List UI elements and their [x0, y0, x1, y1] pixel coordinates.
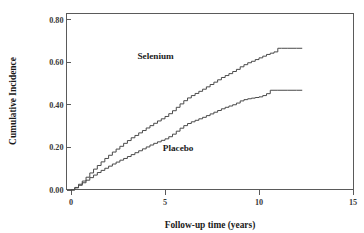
y-tick-label-0.00: 0.00: [49, 186, 63, 195]
series-label-selenium: Selenium: [137, 51, 174, 61]
x-tick-label-5: 5: [163, 198, 167, 207]
series-curves: [71, 48, 302, 190]
y-tick-label-0.40: 0.40: [49, 101, 63, 110]
chart-figure: 051015 0.000.200.400.600.80 SeleniumPlac…: [0, 0, 364, 233]
x-axis-ticks: [71, 190, 353, 195]
plot-frame: [67, 14, 354, 190]
x-tick-label-0: 0: [69, 198, 73, 207]
series-annotations: SeleniumPlacebo: [137, 51, 193, 153]
y-tick-label-0.60: 0.60: [49, 58, 63, 67]
curve-placebo: [71, 90, 302, 190]
series-label-placebo: Placebo: [163, 143, 194, 153]
x-tick-label-15: 15: [349, 198, 357, 207]
y-axis-ticks: [67, 20, 72, 191]
y-axis-title: Cumulative Incidence: [8, 57, 18, 145]
y-axis-tick-labels: 0.000.200.400.600.80: [49, 16, 63, 196]
y-tick-label-0.20: 0.20: [49, 143, 63, 152]
x-axis-title: Follow-up time (years): [165, 220, 256, 231]
x-axis-tick-labels: 051015: [69, 198, 357, 207]
cumulative-incidence-chart: 051015 0.000.200.400.600.80 SeleniumPlac…: [0, 0, 364, 233]
x-tick-label-10: 10: [255, 198, 263, 207]
y-tick-label-0.80: 0.80: [49, 16, 63, 25]
